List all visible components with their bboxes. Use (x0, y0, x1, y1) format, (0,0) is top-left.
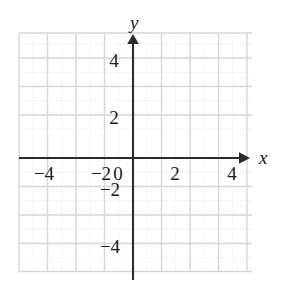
coordinate-grid-svg (0, 0, 284, 287)
x-tick-label-pos4: 4 (222, 164, 242, 183)
coordinate-plane-figure: −4 −2 0 2 4 4 2 −2 −4 x y (0, 0, 284, 287)
major-gridlines (19, 33, 252, 272)
y-tick-label-neg4: −4 (96, 237, 124, 256)
y-tick-label-neg2: −2 (96, 180, 124, 199)
minor-gridlines (19, 33, 252, 272)
x-axis-label: x (259, 148, 267, 167)
y-tick-label-pos2: 2 (104, 108, 124, 127)
x-tick-label-neg4: −4 (26, 164, 62, 183)
x-tick-label-pos2: 2 (165, 164, 185, 183)
y-tick-label-pos4: 4 (104, 51, 124, 70)
y-axis-label: y (130, 13, 138, 32)
